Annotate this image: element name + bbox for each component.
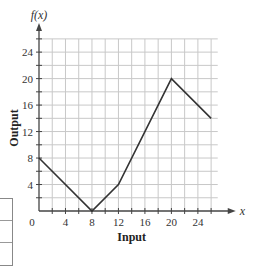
y-tick-label: 16 bbox=[22, 99, 34, 111]
x-axis-arrow-icon bbox=[228, 208, 236, 214]
y-axis-title: Output bbox=[7, 109, 21, 146]
y-axis-arrow-icon bbox=[36, 23, 42, 31]
ticks: 048121620244812162024 bbox=[22, 39, 211, 228]
x-tick-label: 0 bbox=[29, 216, 35, 228]
y-tick-label: 20 bbox=[22, 73, 34, 85]
x-axis-variable: x bbox=[239, 204, 246, 218]
y-tick-label: 8 bbox=[28, 152, 34, 164]
y-tick-label: 24 bbox=[22, 46, 34, 58]
y-tick-label: 12 bbox=[22, 126, 33, 138]
x-tick-label: 16 bbox=[139, 216, 151, 228]
y-axis-variable: f(x) bbox=[31, 8, 48, 22]
x-tick-label: 20 bbox=[166, 216, 178, 228]
x-tick-label: 24 bbox=[192, 216, 204, 228]
x-axis-title: Input bbox=[117, 230, 146, 244]
x-tick-label: 4 bbox=[63, 216, 69, 228]
x-tick-label: 12 bbox=[113, 216, 124, 228]
y-tick-label: 4 bbox=[28, 179, 34, 191]
x-tick-label: 8 bbox=[89, 216, 95, 228]
